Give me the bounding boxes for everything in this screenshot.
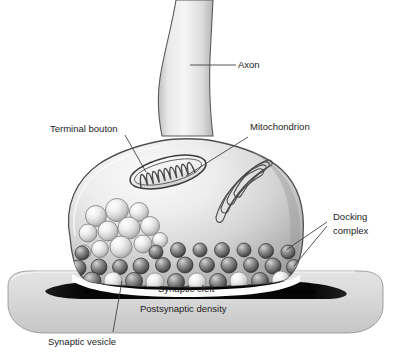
docking-complex [133,258,149,274]
docking-complex [200,258,215,273]
label-synaptic-vesicle: Synaptic vesicle [48,336,116,347]
docking-complex [149,245,163,259]
docking-complex [171,243,186,258]
docking-complex [215,243,230,258]
label-docking-complex-line2: complex [333,225,369,236]
label-axon: Axon [238,59,260,70]
label-mitochondrion: Mitochondrion [250,121,310,132]
label-postsynaptic-density: Postsynaptic density [140,303,227,314]
docking-complex [75,246,89,260]
docking-complex [193,243,207,257]
synaptic-vesicle [92,241,109,258]
docking-complex [177,257,193,273]
axon-shaft [158,0,213,136]
axon [158,0,213,136]
docking-complex [221,257,237,273]
synaptic-vesicle [110,236,132,258]
synapse-diagram: Axon Terminal bouton Mitochondrion Docki… [0,0,393,358]
label-synaptic-cleft: Synaptic cleft [158,283,215,294]
docking-complex [259,244,274,259]
docking-complex [281,245,295,259]
label-terminal-bouton: Terminal bouton [50,123,118,134]
docking-complex [156,258,171,273]
docking-complex [244,258,259,273]
synaptic-vesicle [141,217,160,236]
label-docking-complex-line1: Docking [333,211,367,222]
synaptic-vesicle [79,224,97,242]
docking-complex [237,243,251,257]
diagram-canvas: Axon Terminal bouton Mitochondrion Docki… [0,0,393,358]
